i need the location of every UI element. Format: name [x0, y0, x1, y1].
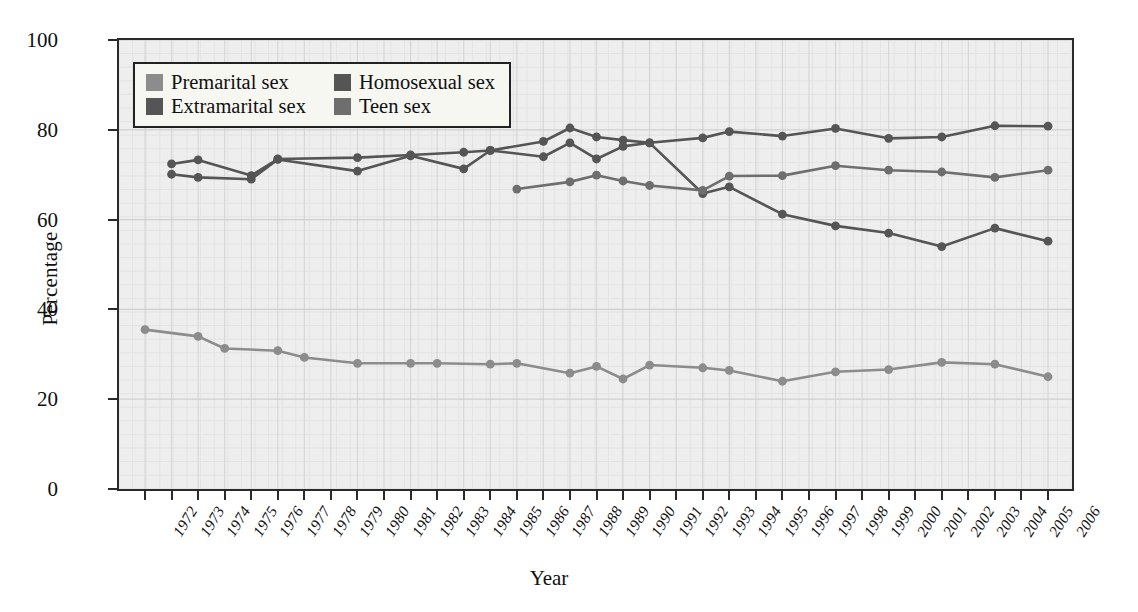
x-tick-mark	[1047, 491, 1049, 500]
chart-legend: Premarital sex Homosexual sex Extramarit…	[133, 62, 511, 128]
x-tick-mark	[144, 491, 146, 500]
x-tick-label: 1984	[488, 503, 520, 540]
x-tick-label: 1977	[302, 503, 334, 540]
x-axis-title-text: Year	[530, 566, 569, 590]
y-tick-mark	[108, 398, 117, 400]
x-tick-mark	[463, 491, 465, 500]
legend-label-teen-sex: Teen sex	[359, 95, 431, 118]
y-tick-mark	[108, 39, 117, 41]
x-tick-mark	[383, 491, 385, 500]
x-tick-label: 1992	[700, 503, 732, 540]
y-tick-label: 20	[0, 387, 58, 412]
x-tick-label: 1999	[886, 503, 918, 540]
x-tick-mark	[781, 491, 783, 500]
legend-swatch-homosexual-sex	[334, 74, 351, 91]
x-tick-label: 1974	[222, 503, 254, 540]
legend-label-premarital-sex: Premarital sex	[171, 71, 289, 94]
x-tick-label: 1989	[621, 503, 653, 540]
legend-label-homosexual-sex: Homosexual sex	[359, 71, 495, 94]
x-tick-mark	[197, 491, 199, 500]
legend-swatch-extramarital-sex	[146, 98, 163, 115]
y-tick-mark	[108, 488, 117, 490]
x-tick-mark	[888, 491, 890, 500]
x-tick-mark	[569, 491, 571, 500]
x-tick-mark	[436, 491, 438, 500]
x-tick-mark	[277, 491, 279, 500]
x-tick-label: 1990	[647, 503, 679, 540]
legend-item-extramarital-sex: Extramarital sex	[146, 95, 306, 118]
x-tick-mark	[622, 491, 624, 500]
x-tick-label: 1987	[568, 503, 600, 540]
x-tick-mark	[542, 491, 544, 500]
y-tick-label: 100	[0, 28, 58, 53]
x-tick-label: 2001	[939, 503, 971, 540]
x-tick-label: 2006	[1072, 503, 1104, 540]
x-tick-label: 1994	[753, 503, 785, 540]
x-tick-mark	[755, 491, 757, 500]
legend-swatch-premarital-sex	[146, 74, 163, 91]
x-tick-label: 1983	[461, 503, 493, 540]
x-tick-label: 1975	[249, 503, 281, 540]
y-tick-label: 60	[0, 207, 58, 232]
x-tick-mark	[330, 491, 332, 500]
legend-label-extramarital-sex: Extramarital sex	[171, 95, 306, 118]
x-tick-mark	[702, 491, 704, 500]
x-tick-mark	[835, 491, 837, 500]
x-tick-label: 1982	[435, 503, 467, 540]
x-tick-label: 1986	[541, 503, 573, 540]
y-tick-label: 40	[0, 297, 58, 322]
x-tick-mark	[941, 491, 943, 500]
x-tick-label: 1973	[196, 503, 228, 540]
x-tick-mark	[808, 491, 810, 500]
x-tick-label: 1995	[780, 503, 812, 540]
x-tick-mark	[489, 491, 491, 500]
x-tick-mark	[224, 491, 226, 500]
x-tick-label: 1978	[328, 503, 360, 540]
x-tick-label: 1988	[594, 503, 626, 540]
x-tick-mark	[356, 491, 358, 500]
x-tick-label: 1981	[408, 503, 440, 540]
x-tick-label: 1972	[169, 503, 201, 540]
x-tick-mark	[967, 491, 969, 500]
x-tick-mark	[994, 491, 996, 500]
x-tick-mark	[1020, 491, 1022, 500]
y-tick-mark	[108, 129, 117, 131]
x-tick-label: 2004	[1019, 503, 1051, 540]
x-tick-mark	[649, 491, 651, 500]
x-tick-label: 1976	[275, 503, 307, 540]
x-tick-label: 2000	[913, 503, 945, 540]
chart-figure: Percentage 020406080100 1972197319741975…	[0, 0, 1138, 612]
x-tick-label: 1985	[514, 503, 546, 540]
x-tick-mark	[861, 491, 863, 500]
x-tick-mark	[303, 491, 305, 500]
legend-item-teen-sex: Teen sex	[334, 95, 495, 118]
x-tick-mark	[675, 491, 677, 500]
x-tick-mark	[250, 491, 252, 500]
y-tick-mark	[108, 308, 117, 310]
y-tick-mark	[108, 219, 117, 221]
x-tick-label: 2005	[1046, 503, 1078, 540]
x-tick-mark	[410, 491, 412, 500]
x-tick-mark	[728, 491, 730, 500]
x-tick-label: 1997	[833, 503, 865, 540]
x-tick-label: 2002	[966, 503, 998, 540]
x-tick-label: 1993	[727, 503, 759, 540]
x-tick-mark	[914, 491, 916, 500]
x-tick-mark	[171, 491, 173, 500]
x-tick-label: 1998	[860, 503, 892, 540]
x-axis-title: Year	[0, 566, 1138, 591]
legend-item-homosexual-sex: Homosexual sex	[334, 71, 495, 94]
x-tick-mark	[596, 491, 598, 500]
x-tick-mark	[516, 491, 518, 500]
legend-item-premarital-sex: Premarital sex	[146, 71, 306, 94]
x-tick-label: 1979	[355, 503, 387, 540]
y-tick-label: 80	[0, 117, 58, 142]
legend-swatch-teen-sex	[334, 98, 351, 115]
x-tick-label: 1980	[382, 503, 414, 540]
y-tick-label: 0	[0, 477, 58, 502]
x-tick-label: 1996	[807, 503, 839, 540]
x-tick-label: 2003	[992, 503, 1024, 540]
x-tick-label: 1991	[674, 503, 706, 540]
